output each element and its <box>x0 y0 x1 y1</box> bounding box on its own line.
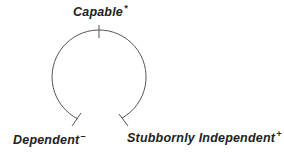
label-dependent: Dependent– <box>13 133 86 147</box>
asterisk-mark: * <box>124 3 128 13</box>
label-dependent-text: Dependent <box>13 133 79 147</box>
label-stubbornly-independent-text: Stubbornly Independent <box>127 131 275 145</box>
left-end-tick <box>72 113 81 126</box>
right-end-tick <box>119 114 128 126</box>
minus-mark: – <box>80 131 85 141</box>
plus-mark: + <box>276 129 281 139</box>
label-stubbornly-independent: Stubbornly Independent+ <box>127 131 282 145</box>
label-capable-text: Capable <box>73 5 123 19</box>
open-circle-arc <box>52 30 146 119</box>
label-capable: Capable* <box>73 5 128 19</box>
